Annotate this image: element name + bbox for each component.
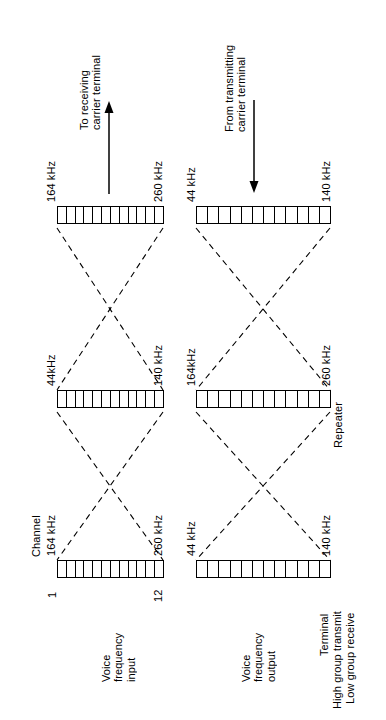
channel-cell (84, 561, 93, 577)
channel-cell (275, 391, 286, 407)
frequency-label-end-repeater-low: 140 kHz (152, 330, 164, 386)
channel-cell (111, 391, 120, 407)
arrow-label-to-receiving-terminal: To receiving carrier terminal (78, 34, 103, 130)
channel-number-last: 12 (152, 582, 164, 602)
channel-cell (219, 561, 230, 577)
channel-cell (275, 561, 286, 577)
frequency-label-end-terminal-high-transmit: 260 kHz (152, 146, 164, 202)
channel-cell (76, 391, 85, 407)
repeater-label: Repeater (332, 388, 344, 448)
channel-cell (93, 207, 102, 223)
channel-cell (298, 391, 309, 407)
channel-bar-repeater-high (196, 390, 331, 408)
frequency-label-start-terminal-high-transmit: 164 kHz (45, 146, 57, 202)
channel-cell (275, 207, 286, 223)
channel-cell (286, 561, 297, 577)
legend-high-group-transmit: High group transmit (331, 604, 343, 709)
voice-frequency-input-label: Voice frequency input (100, 610, 137, 682)
channel-cell (155, 391, 163, 407)
channel-cell (309, 561, 320, 577)
channel-cell (320, 207, 330, 223)
channel-number-first: 1 (46, 582, 58, 598)
channel-cell (231, 207, 242, 223)
channel-cell (146, 391, 155, 407)
channel-cell (197, 207, 208, 223)
frequency-label-start-repeater-low: 44kHz (45, 338, 57, 386)
channel-cell (137, 207, 146, 223)
channel-cell (102, 207, 111, 223)
channel-cell (58, 561, 67, 577)
channel-cell (320, 391, 330, 407)
frequency-label-end-vf-input: 260 kHz (152, 500, 164, 556)
channel-cell (208, 561, 219, 577)
legend-terminal: Terminal (318, 604, 330, 656)
channel-cell (197, 391, 208, 407)
channel-cell (242, 561, 253, 577)
channel-cell (129, 561, 138, 577)
channel-cell (137, 391, 146, 407)
channel-bar-terminal-low-receive (196, 206, 331, 224)
channel-bar-vf-input (57, 560, 164, 578)
channel-cell (67, 391, 76, 407)
channel-cell (58, 391, 67, 407)
channel-cell (93, 561, 102, 577)
channel-cell (253, 561, 264, 577)
channel-cell (309, 207, 320, 223)
channel-cell (76, 207, 85, 223)
channel-cell (120, 391, 129, 407)
channel-cell (309, 391, 320, 407)
channel-cell (111, 561, 120, 577)
arrow-label-from-transmitting-terminal: From transmitting carrier terminal (223, 26, 248, 132)
channel-bar-vf-output (196, 560, 331, 578)
channel-cell (286, 391, 297, 407)
channel-cell (93, 391, 102, 407)
channel-cell (129, 391, 138, 407)
frequency-label-end-vf-output: 140 kHz (320, 500, 332, 556)
channel-cell (146, 207, 155, 223)
channel-cell (242, 391, 253, 407)
frequency-label-start-vf-input: 164 kHz (45, 500, 57, 556)
channel-cell (219, 207, 230, 223)
channel-cell (120, 207, 129, 223)
channel-cell (219, 391, 230, 407)
channel-cell (231, 391, 242, 407)
voice-frequency-output-label: Voice frequency output (240, 610, 277, 682)
channel-cell (298, 561, 309, 577)
channel-cell (253, 207, 264, 223)
channel-bar-repeater-low (57, 390, 164, 408)
channel-cell (102, 391, 111, 407)
channel-cell (155, 561, 163, 577)
channel-cell (264, 561, 275, 577)
channel-cell (231, 561, 242, 577)
channel-cell (253, 391, 264, 407)
legend-low-group-receive: Low group receive (344, 604, 356, 704)
channel-cell (155, 207, 163, 223)
channel-cell (286, 207, 297, 223)
channel-cell (264, 391, 275, 407)
channel-cell (242, 207, 253, 223)
channel-cell (129, 207, 138, 223)
channel-cell (146, 561, 155, 577)
channel-cell (58, 207, 67, 223)
channel-cell (208, 207, 219, 223)
frequency-label-start-repeater-high: 164kHz (185, 332, 197, 386)
diagram-canvas: 164 kHz 260 kHz 44 kHz 140 kHz To receiv… (0, 0, 386, 720)
frequency-label-end-terminal-low-receive: 140 kHz (320, 146, 332, 202)
channel-cell (84, 207, 93, 223)
channel-cell (67, 207, 76, 223)
channel-cell (298, 207, 309, 223)
channel-bar-terminal-high-transmit (57, 206, 164, 224)
channel-cell (197, 561, 208, 577)
channel-cell (76, 561, 85, 577)
channel-cell (84, 391, 93, 407)
channel-cell (111, 207, 120, 223)
channel-cell (67, 561, 76, 577)
channel-cell (120, 561, 129, 577)
channel-cell (102, 561, 111, 577)
channel-cell (264, 207, 275, 223)
frequency-label-end-repeater-high: 260 kHz (320, 330, 332, 386)
channel-header-label: Channel (30, 497, 42, 557)
channel-cell (137, 561, 146, 577)
channel-cell (320, 561, 330, 577)
frequency-label-start-terminal-low-receive: 44 kHz (185, 152, 197, 202)
